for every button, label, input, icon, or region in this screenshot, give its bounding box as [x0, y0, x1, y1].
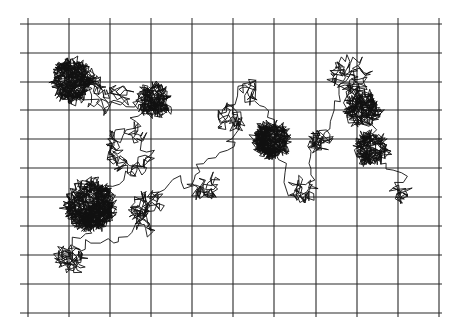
- random-walk-path: [49, 55, 412, 273]
- plot-canvas: [0, 0, 465, 336]
- random-walk-figure: [0, 0, 465, 336]
- grid: [20, 18, 442, 317]
